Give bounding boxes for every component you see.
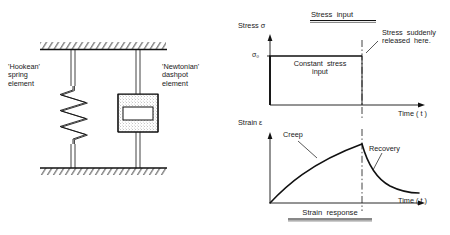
hookean-spring-label: 'Hookean' spring element bbox=[8, 63, 40, 88]
constant-stress-annotation: Constant stress input bbox=[272, 60, 368, 77]
top-support bbox=[40, 42, 167, 49]
hookean-spring-element bbox=[60, 86, 87, 144]
stress-axis-label: Stress σ bbox=[238, 22, 265, 30]
stress-input-title: Stress input bbox=[287, 11, 377, 19]
bottom-support bbox=[40, 168, 167, 175]
creep-leader bbox=[298, 141, 317, 158]
strain-axis-label: Strain ε bbox=[238, 119, 262, 127]
recovery-annotation: Recovery bbox=[369, 145, 400, 153]
creep-annotation: Creep bbox=[283, 131, 303, 139]
spring-rods bbox=[71, 49, 75, 168]
sigma-zero-tick-label: σ₀ bbox=[252, 51, 259, 59]
stress-released-annotation: Stress suddenly released here. bbox=[382, 29, 436, 46]
strain-time-axis-label: Time ( t ) bbox=[398, 197, 427, 205]
stress-annotation-leader bbox=[366, 41, 378, 53]
newtonian-dashpot-label: 'Newtonian' dashpot element bbox=[162, 63, 199, 88]
strain-response-title: Strain response bbox=[288, 209, 372, 217]
spring-dashpot-diagram bbox=[0, 0, 225, 235]
recovery-leader bbox=[373, 153, 382, 170]
strain-axes bbox=[268, 132, 425, 205]
newtonian-dashpot-element bbox=[118, 94, 158, 132]
figure-root: 'Hookean' spring element 'Newtonian' das… bbox=[0, 0, 450, 235]
